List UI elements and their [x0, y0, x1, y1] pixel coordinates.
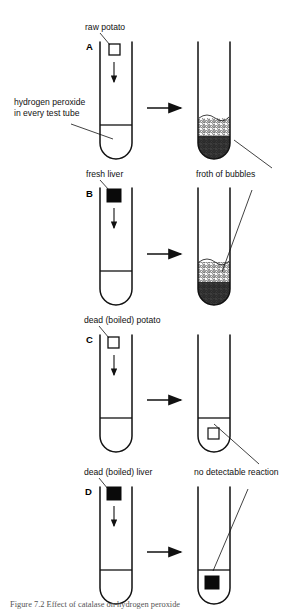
panel-letter-d: D — [85, 486, 92, 497]
figure-caption: Figure 7.2 Effect of catalase on hydroge… — [10, 600, 180, 609]
tube-d-after — [198, 487, 230, 604]
figure-container: A raw potato hydrogen peroxide in every … — [0, 0, 298, 611]
tube-c-before — [100, 335, 132, 452]
panel-letter-a: A — [86, 41, 93, 52]
panel-letter-b: B — [86, 188, 93, 199]
label-fresh-liver: fresh liver — [86, 169, 123, 180]
tube-a-after — [198, 42, 230, 159]
label-hydrogen-peroxide-line1: hydrogen peroxide — [14, 97, 119, 108]
result-c-square — [208, 428, 219, 439]
experiment-diagram — [0, 0, 298, 611]
label-raw-potato: raw potato — [85, 22, 125, 33]
result-d-square — [205, 576, 219, 589]
panel-letter-c: C — [86, 334, 93, 345]
sample-d-boiled-liver — [107, 487, 121, 500]
label-hydrogen-peroxide-line2: in every test tube — [14, 108, 119, 119]
label-dead-boiled-liver: dead (boiled) liver — [84, 467, 152, 478]
label-no-detectable-reaction: no detectable reaction — [194, 467, 279, 478]
tube-b-after — [198, 188, 230, 305]
tube-d-before — [100, 487, 132, 604]
label-dead-boiled-potato: dead (boiled) potato — [84, 315, 160, 326]
sample-b-fresh-liver — [107, 189, 121, 202]
label-froth-of-bubbles: froth of bubbles — [196, 169, 255, 180]
tube-b-before — [100, 188, 132, 305]
sample-a-raw-potato — [109, 44, 120, 55]
sample-c-boiled-potato — [108, 337, 119, 348]
